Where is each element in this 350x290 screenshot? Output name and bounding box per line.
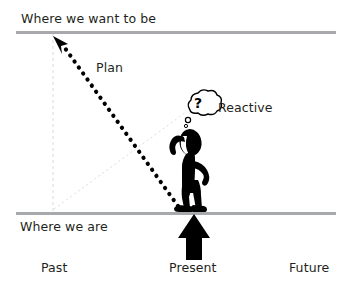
axis-label-future: Future: [289, 261, 329, 275]
reactive-label: Reactive: [218, 101, 273, 115]
where-we-are-label: Where we are: [20, 220, 108, 234]
thought-bubble-icon: ?: [184, 90, 221, 128]
up-arrow-icon: [178, 214, 210, 260]
where-we-want-to-be-label: Where we want to be: [21, 12, 156, 26]
gap-analysis-diagram: ?: [0, 0, 350, 290]
axis-label-present: Present: [169, 261, 217, 275]
axis-label-past: Past: [41, 261, 67, 275]
dotted-guide-line-icon: [54, 112, 186, 209]
thought-bubble-question-mark: ?: [194, 95, 202, 111]
plan-label: Plan: [96, 61, 123, 75]
